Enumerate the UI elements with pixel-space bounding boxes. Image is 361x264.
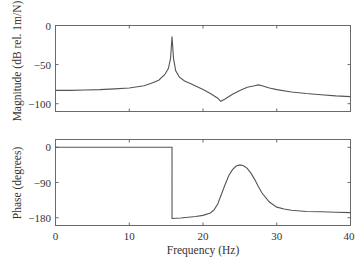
phase-plot: 0 −90 −180 Phase (degrees) 0 10 20 30 40… <box>11 140 355 258</box>
phase-ytick-2: −180 <box>28 212 51 224</box>
phase-ytick-0: 0 <box>46 141 52 153</box>
magnitude-ytick-0: 0 <box>46 20 52 32</box>
xlabel: Frequency (Hz) <box>167 244 240 257</box>
magnitude-axes-frame <box>56 26 351 112</box>
phase-ylabel: Phase (degrees) <box>11 147 24 220</box>
phase-xtick-1: 10 <box>124 230 136 242</box>
magnitude-ytick-2: −100 <box>28 98 51 110</box>
phase-xtick-3: 30 <box>271 230 283 242</box>
phase-y-ticks <box>56 147 351 217</box>
phase-ytick-1: −90 <box>34 177 52 189</box>
magnitude-ytick-1: −50 <box>34 59 52 71</box>
magnitude-x-ticks <box>129 26 277 112</box>
phase-axes-frame <box>56 140 351 226</box>
phase-curve <box>56 147 351 218</box>
phase-x-ticks <box>129 140 277 226</box>
magnitude-y-ticks <box>56 65 351 104</box>
magnitude-curve <box>56 36 351 101</box>
phase-xtick-0: 0 <box>53 230 59 242</box>
phase-xtick-4: 40 <box>344 230 356 242</box>
magnitude-ylabel: Magnitude (dB rel. 1m/N) <box>11 0 24 121</box>
magnitude-plot: 0 −50 −100 Magnitude (dB rel. 1m/N) <box>11 0 351 121</box>
phase-xtick-2: 20 <box>198 230 210 242</box>
figure: 0 −50 −100 Magnitude (dB rel. 1m/N) 0 −9… <box>0 0 361 264</box>
